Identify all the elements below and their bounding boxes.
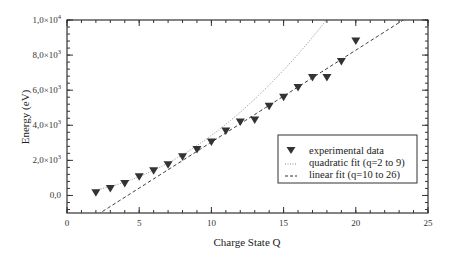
legend-label-quadratic: quadratic fit (q=2 to 9) [309, 157, 405, 169]
series-layer [67, 0, 428, 234]
x-tick-label: 25 [424, 218, 434, 228]
data-point [250, 117, 259, 125]
data-point [120, 180, 129, 188]
data-point [207, 138, 216, 146]
x-tick-label: 5 [137, 218, 142, 228]
linear-fit-line [67, 4, 428, 234]
x-axis-title: Charge State Q [213, 236, 280, 248]
data-point [106, 185, 115, 193]
data-point [265, 103, 274, 111]
data-point [322, 74, 331, 82]
x-tick-label: 15 [279, 218, 289, 228]
y-tick-label: 8,0×103 [32, 48, 61, 60]
data-point [351, 37, 360, 45]
data-point [294, 84, 303, 92]
y-tick-labels: 0,02,0×1034,0×1036,0×1038,0×1031,0×104 [32, 13, 61, 200]
y-tick-label: 4,0×103 [32, 118, 61, 130]
y-axis-title: Energy (eV) [19, 89, 32, 144]
y-tick-label: 2,0×103 [32, 153, 61, 165]
legend-label-experimental: experimental data [309, 145, 384, 156]
x-tick-label: 0 [65, 218, 70, 228]
x-tick-label: 10 [207, 218, 217, 228]
data-point [221, 128, 230, 136]
data-point [91, 189, 100, 197]
data-point [308, 74, 317, 82]
legend-label-linear: linear fit (q=10 to 26) [309, 169, 401, 181]
legend: experimental data quadratic fit (q=2 to … [278, 135, 417, 183]
y-tick-label: 1,0×104 [32, 13, 61, 25]
y-tick-label: 6,0×103 [32, 83, 61, 95]
chart: 0510152025 0,02,0×1034,0×1036,0×1038,0×1… [0, 0, 450, 268]
data-point [164, 161, 173, 169]
y-tick-label: 0,0 [50, 190, 62, 200]
x-tick-label: 20 [351, 218, 361, 228]
data-point [149, 167, 158, 175]
data-point [135, 173, 144, 181]
data-point [279, 94, 288, 102]
major-ticks [67, 20, 428, 213]
plot-frame [67, 20, 428, 213]
data-point [236, 119, 245, 127]
x-tick-labels: 0510152025 [65, 218, 433, 228]
minor-ticks [67, 20, 428, 213]
